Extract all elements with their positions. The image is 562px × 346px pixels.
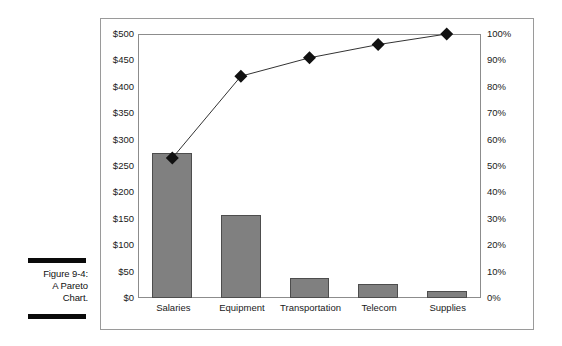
y-axis-right-tick: 30% — [487, 214, 506, 224]
y-axis-right-tick: 50% — [487, 161, 506, 171]
pareto-chart: $0$50$100$150$200$250$300$350$400$450$50… — [101, 19, 535, 331]
caption-line-3: Chart. — [20, 292, 88, 304]
y-axis-right-tick: 60% — [487, 135, 506, 145]
caption-line-2: A Pareto — [20, 280, 88, 292]
figure-frame: $0$50$100$150$200$250$300$350$400$450$50… — [100, 18, 534, 330]
y-axis-right-tick: 90% — [487, 55, 506, 65]
x-axis-category-label: Salaries — [156, 302, 190, 313]
y-axis-left-tick: $150 — [113, 214, 134, 224]
y-axis-left-tick: $50 — [118, 267, 134, 277]
y-axis-right-tick: 40% — [487, 187, 506, 197]
y-axis-right-tick: 100% — [487, 29, 511, 39]
y-axis-left-tick: $0 — [123, 293, 134, 303]
line-marker-diamond — [234, 70, 247, 83]
line-marker-diamond — [166, 152, 179, 165]
y-axis-left-tick: $500 — [113, 29, 134, 39]
y-axis-right: 0%10%20%30%40%50%60%70%80%90%100% — [487, 19, 533, 331]
y-axis-right-tick: 70% — [487, 108, 506, 118]
y-axis-left-tick: $350 — [113, 108, 134, 118]
figure-caption-block: Figure 9-4: A Pareto Chart. — [20, 258, 88, 319]
x-axis-category-label: Equipment — [219, 302, 264, 313]
line-marker-diamond — [303, 51, 316, 64]
x-axis-labels: SalariesEquipmentTransportationTelecomSu… — [139, 302, 481, 322]
y-axis-left-tick: $450 — [113, 55, 134, 65]
y-axis-right-tick: 0% — [487, 293, 501, 303]
y-axis-right-tick: 10% — [487, 267, 506, 277]
caption-figure-number: Figure 9-4: — [20, 268, 88, 280]
y-axis-left-tick: $200 — [113, 187, 134, 197]
y-axis-right-tick: 80% — [487, 82, 506, 92]
line-marker-diamond — [440, 28, 453, 41]
y-axis-left-tick: $250 — [113, 161, 134, 171]
figure-caption-text: Figure 9-4: A Pareto Chart. — [20, 263, 88, 308]
y-axis-left: $0$50$100$150$200$250$300$350$400$450$50… — [101, 19, 134, 331]
y-axis-right-tick: 20% — [487, 240, 506, 250]
y-axis-left-tick: $100 — [113, 240, 134, 250]
x-axis-category-label: Transportation — [280, 302, 341, 313]
y-axis-left-tick: $300 — [113, 135, 134, 145]
y-axis-left-tick: $400 — [113, 82, 134, 92]
line-marker-diamond — [372, 38, 385, 51]
cumulative-line-series — [138, 34, 481, 298]
caption-rule-bottom — [28, 314, 86, 319]
x-axis-category-label: Supplies — [429, 302, 465, 313]
x-axis-category-label: Telecom — [361, 302, 396, 313]
